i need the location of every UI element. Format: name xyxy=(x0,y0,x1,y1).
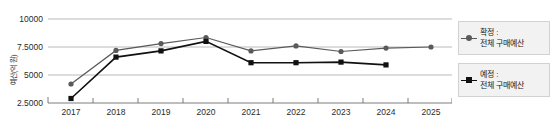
data-point-confirmed[interactable] xyxy=(248,48,253,53)
data-point-confirmed[interactable] xyxy=(113,48,118,53)
data-point-confirmed[interactable] xyxy=(338,49,343,54)
data-point-confirmed[interactable] xyxy=(68,81,73,86)
series-layer xyxy=(68,35,433,101)
x-tick-label-2023: 2023 xyxy=(332,107,351,117)
y-tick-label-5000: 5000 xyxy=(24,70,43,80)
data-point-confirmed[interactable] xyxy=(158,41,163,46)
data-point-planned[interactable] xyxy=(68,96,73,101)
data-point-confirmed[interactable] xyxy=(293,43,298,48)
legend-label-confirmed-line2: 전체 구매예산 xyxy=(480,38,524,49)
legend-label-confirmed-line1: 확정 : xyxy=(480,28,498,37)
data-point-planned[interactable] xyxy=(158,48,163,53)
legend-label-confirmed: 확정 : 전체 구매예산 xyxy=(480,27,524,49)
legend-item-confirmed[interactable]: 확정 : 전체 구매예산 xyxy=(458,21,550,55)
x-tick-label-2019: 2019 xyxy=(152,107,171,117)
x-tick-label-2017: 2017 xyxy=(62,107,81,117)
y-tick-label-7500: 7.5000 xyxy=(17,42,43,52)
chart-plot-area: 예산(억 원) 10000 7.5000 5000 2.5000 xyxy=(0,0,452,124)
data-point-planned[interactable] xyxy=(338,60,343,65)
x-tick-label-2020: 2020 xyxy=(197,107,216,117)
x-tick-label-2025: 2025 xyxy=(422,107,441,117)
legend-label-planned-line2: 전체 구매예산 xyxy=(480,80,524,91)
data-point-planned[interactable] xyxy=(293,60,298,65)
circle-marker-icon xyxy=(461,33,477,43)
data-point-confirmed[interactable] xyxy=(428,44,433,49)
y-tick-label-10000: 10000 xyxy=(19,14,43,24)
data-point-planned[interactable] xyxy=(248,60,253,65)
x-tick-label-2021: 2021 xyxy=(242,107,261,117)
x-tick-label-2022: 2022 xyxy=(287,107,306,117)
y-tick-label-2500: 2.5000 xyxy=(17,98,43,108)
legend-item-planned[interactable]: 예정 : 전체 구매예산 xyxy=(458,63,550,97)
chart-figure: 예산(억 원) 10000 7.5000 5000 2.5000 xyxy=(0,0,552,124)
legend-label-planned-line1: 예정 : xyxy=(480,70,498,79)
data-point-planned[interactable] xyxy=(113,55,118,60)
data-point-planned[interactable] xyxy=(203,39,208,44)
line-chart-svg: 예산(억 원) 10000 7.5000 5000 2.5000 xyxy=(0,0,452,124)
square-marker-icon xyxy=(461,75,477,85)
x-tick-label-2018: 2018 xyxy=(107,107,126,117)
legend-label-planned: 예정 : 전체 구매예산 xyxy=(480,69,524,91)
x-tick-label-2024: 2024 xyxy=(377,107,396,117)
data-point-confirmed[interactable] xyxy=(383,46,388,51)
y-axis-title: 예산(억 원) xyxy=(9,54,18,85)
chart-legend: 확정 : 전체 구매예산 예정 : 전체 구매예산 xyxy=(458,0,552,124)
data-point-planned[interactable] xyxy=(383,62,388,67)
